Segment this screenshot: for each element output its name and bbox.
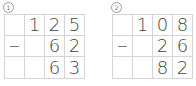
cell: 8 — [153, 57, 173, 79]
subtrahend-row: − 2 6 — [113, 36, 193, 57]
minuend-row: 1 2 5 — [5, 15, 85, 36]
cell: 5 — [65, 15, 85, 36]
cell: 8 — [173, 15, 193, 36]
cell: 2 — [45, 15, 65, 36]
difference-row: 6 3 — [5, 57, 85, 79]
cell: 2 — [65, 36, 85, 57]
minus-sign: − — [5, 36, 25, 57]
minus-sign: − — [113, 36, 133, 57]
problem-number-badge: 1 — [3, 2, 14, 13]
cell: 1 — [25, 15, 45, 36]
cell — [5, 15, 25, 36]
cell: 3 — [65, 57, 85, 79]
cell: 6 — [45, 36, 65, 57]
cell: 0 — [153, 15, 173, 36]
cell: 1 — [133, 15, 153, 36]
cell: 2 — [173, 57, 193, 79]
cell — [133, 57, 153, 79]
subtraction-grid: 1 2 5 − 6 2 6 3 — [4, 14, 85, 79]
cell — [25, 57, 45, 79]
cell: 2 — [153, 36, 173, 57]
problem-number-badge: 2 — [111, 2, 122, 13]
cell — [113, 57, 133, 79]
cell — [133, 36, 153, 57]
cell: 6 — [45, 57, 65, 79]
subtraction-grid: 1 0 8 − 2 6 8 2 — [112, 14, 193, 79]
subtrahend-row: − 6 2 — [5, 36, 85, 57]
cell — [5, 57, 25, 79]
cell — [25, 36, 45, 57]
problem-1: 1 1 2 5 − 6 2 6 3 — [0, 0, 90, 86]
difference-row: 8 2 — [113, 57, 193, 79]
problem-2: 2 1 0 8 − 2 6 8 2 — [108, 0, 196, 86]
cell — [113, 15, 133, 36]
cell: 6 — [173, 36, 193, 57]
minuend-row: 1 0 8 — [113, 15, 193, 36]
